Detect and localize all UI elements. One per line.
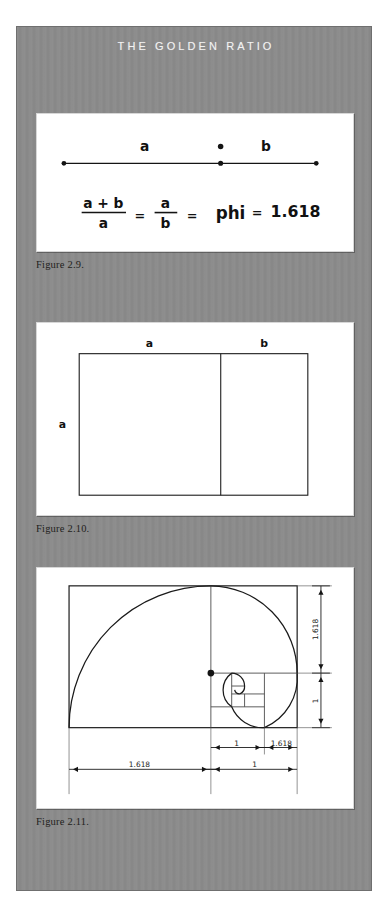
figure-2-11-block: 1.618 1 1 — [36, 567, 354, 809]
equation-numerator-1: a + b — [83, 195, 123, 211]
segment-endpoint-left — [62, 161, 67, 166]
dimension-bottom-outer-right-label: 1 — [252, 760, 257, 769]
figure-2-10-card: a b a — [36, 322, 354, 516]
equation-equals-2: = — [187, 208, 198, 223]
figure-2-11-card: 1.618 1 1 — [36, 567, 354, 809]
segment-division-point — [218, 161, 223, 166]
dimension-right-upper: 1.618 — [311, 586, 330, 673]
equation-phi-value: 1.618 — [271, 202, 321, 221]
equation-denominator-2: b — [160, 215, 170, 231]
label-side-a: a — [59, 418, 66, 431]
dimension-bottom-inner-right-label: 1.618 — [271, 739, 293, 748]
label-segment-a: a — [140, 138, 149, 154]
dimension-bottom-inner-left-label: 1 — [234, 739, 239, 748]
label-segment-b: b — [261, 138, 271, 154]
equation-equals-1: = — [134, 208, 145, 223]
spiral-center-dot — [207, 670, 214, 677]
figure-2-10-block: a b a Figure 2.10. — [36, 322, 354, 516]
figure-2-11-drawing: 1.618 1 1 — [37, 568, 353, 808]
figure-2-9-drawing: a b a + b a = a b = phi = 1.618 — [37, 114, 353, 251]
page-title: THE GOLDEN RATIO — [0, 40, 389, 52]
dimension-bottom-outer-left: 1.618 — [69, 760, 211, 772]
dimension-right-lower: 1 — [311, 673, 330, 728]
figure-2-9-caption: Figure 2.9. — [36, 259, 84, 270]
dimension-bottom-inner-right: 1.618 — [264, 739, 297, 751]
dimension-bottom-inner-left: 1 — [211, 739, 265, 751]
figure-2-9-block: a b a + b a = a b = phi = 1.618 Figure 2… — [36, 113, 354, 252]
figure-2-11-caption: Figure 2.11. — [36, 816, 89, 827]
label-top-b: b — [260, 337, 268, 350]
label-top-a: a — [146, 337, 153, 350]
dimension-right-lower-label: 1 — [311, 698, 320, 703]
equation-phi-name: phi — [216, 203, 246, 223]
dimension-bottom-outer-right: 1 — [211, 760, 297, 772]
segment-endpoint-right — [314, 161, 319, 166]
equation-denominator-1: a — [99, 215, 108, 231]
figure-2-9-card: a b a + b a = a b = phi = 1.618 — [36, 113, 354, 252]
figure-2-10-drawing: a b a — [37, 323, 353, 515]
golden-rectangle-outline — [79, 354, 308, 496]
equation-numerator-2: a — [161, 195, 170, 211]
equation-equals-3: = — [252, 205, 263, 220]
dimension-right-upper-label: 1.618 — [311, 619, 320, 641]
division-marker-dot — [218, 144, 224, 150]
figure-2-10-caption: Figure 2.10. — [36, 523, 89, 534]
dimension-bottom-outer-left-label: 1.618 — [129, 760, 151, 769]
